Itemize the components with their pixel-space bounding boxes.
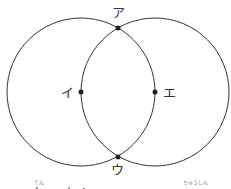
point-e [153,90,158,95]
label-a: ア [112,6,125,19]
point-u [116,155,121,160]
point-a [116,26,121,31]
furigana-chuushin: ちゅうしん [183,180,208,185]
label-e: エ [163,86,176,99]
diagram-canvas [0,0,231,189]
point-i [79,90,84,95]
caption-text-cropped: 点…中心 [30,183,94,189]
label-u: ウ [111,163,124,176]
label-i: イ [61,86,74,99]
